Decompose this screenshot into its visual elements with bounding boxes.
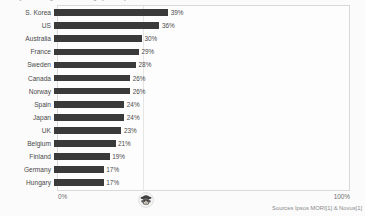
bar-row-label: US — [0, 22, 54, 29]
x-axis-tick-max: 100% — [334, 193, 350, 201]
bar-row: Belgium21% — [0, 137, 365, 150]
bar-row-label: UK — [0, 127, 54, 134]
bar — [54, 127, 121, 134]
bar-row: Germany17% — [0, 163, 365, 176]
bar-value-label: 24% — [127, 101, 140, 108]
bar-track: 39% — [54, 6, 365, 19]
bar-row-label: Australia — [0, 35, 54, 42]
bar-value-label: 29% — [141, 48, 154, 55]
bar-value-label: 26% — [133, 88, 146, 95]
bar-row: Spain24% — [0, 98, 365, 111]
bar-track: 26% — [54, 85, 365, 98]
bar-row: Canada26% — [0, 71, 365, 84]
bar — [54, 62, 136, 69]
bar — [54, 179, 104, 186]
bar-rows: S. Korea39%US36%Australia30%France29%Swe… — [0, 6, 365, 192]
bar-track: 17% — [54, 176, 365, 189]
bar — [54, 114, 124, 121]
chart-title: Survey: Belief in ghosts / haunting by c… — [3, 0, 303, 3]
source-note: Sources Ipsos MORI[1] & Novus[1] — [272, 204, 362, 212]
bar-row-label: Germany — [0, 166, 54, 173]
bar-value-label: 19% — [112, 153, 125, 160]
bar-value-label: 30% — [144, 35, 157, 42]
bar-track: 29% — [54, 45, 365, 58]
bar-value-label: 17% — [106, 179, 119, 186]
bar-row: Norway26% — [0, 85, 365, 98]
bar — [54, 75, 130, 82]
bar-row-label: Norway — [0, 88, 54, 95]
bar-value-label: 24% — [127, 114, 140, 121]
bar-value-label: 26% — [133, 75, 146, 82]
bar — [54, 153, 110, 160]
bar — [54, 22, 159, 29]
bar-row-label: France — [0, 48, 54, 55]
bar-row: S. Korea39% — [0, 6, 365, 19]
bar-track: 26% — [54, 71, 365, 84]
bar-row: Hungary17% — [0, 176, 365, 189]
bar-track: 30% — [54, 32, 365, 45]
bar — [54, 166, 104, 173]
bar-row-label: Japan — [0, 114, 54, 121]
bar-track: 23% — [54, 124, 365, 137]
monkey-face-logo — [138, 192, 154, 208]
bar-row-label: Sweden — [0, 61, 54, 68]
bar-row-label: S. Korea — [0, 9, 54, 16]
bar — [54, 88, 130, 95]
bar-track: 28% — [54, 58, 365, 71]
bar-row-label: Belgium — [0, 140, 54, 147]
bar-row: France29% — [0, 45, 365, 58]
bar-row: US36% — [0, 19, 365, 32]
bar-row: Finland19% — [0, 150, 365, 163]
chart-page: Survey: Belief in ghosts / haunting by c… — [0, 0, 365, 216]
bar-row-label: Hungary — [0, 179, 54, 186]
bar-row-label: Finland — [0, 153, 54, 160]
bar-row-label: Canada — [0, 75, 54, 82]
x-axis: 0% 100% — [57, 193, 350, 203]
bar-row-label: Spain — [0, 101, 54, 108]
bar — [54, 49, 139, 56]
bar-row: UK23% — [0, 124, 365, 137]
bar — [54, 9, 168, 16]
bar — [54, 35, 142, 42]
bar-value-label: 21% — [118, 140, 131, 147]
bar-value-label: 17% — [106, 166, 119, 173]
bar-track: 19% — [54, 150, 365, 163]
bar — [54, 101, 124, 108]
x-axis-tick-min: 0% — [58, 193, 67, 201]
bar-track: 36% — [54, 19, 365, 32]
bar-value-label: 23% — [124, 127, 137, 134]
bar-track: 24% — [54, 98, 365, 111]
bar-row: Sweden28% — [0, 58, 365, 71]
bar-row: Australia30% — [0, 32, 365, 45]
bar — [54, 140, 116, 147]
bar-value-label: 36% — [162, 22, 175, 29]
bar-value-label: 28% — [139, 61, 152, 68]
bar-track: 24% — [54, 111, 365, 124]
bar-row: Japan24% — [0, 111, 365, 124]
bar-value-label: 39% — [171, 9, 184, 16]
bar-track: 17% — [54, 163, 365, 176]
bar-track: 21% — [54, 137, 365, 150]
